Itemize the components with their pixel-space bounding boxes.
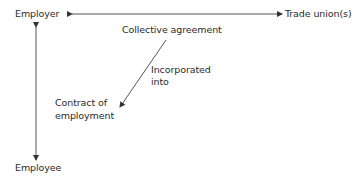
employer-label: Employer [15, 8, 59, 20]
employee-label: Employee [15, 162, 61, 174]
collective-agreement-label: Collective agreement [122, 24, 222, 36]
contract-label-line1: Contract of [55, 97, 107, 109]
trade-unions-label: Trade union(s) [285, 8, 352, 20]
contract-label-line2: employment [55, 110, 114, 122]
incorporated-label-line2: into [151, 76, 169, 88]
incorporated-label-line1: Incorporated [151, 64, 211, 76]
